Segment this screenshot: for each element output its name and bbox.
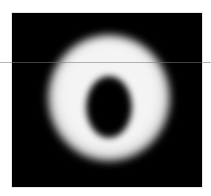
scan-line-artifact [0,62,211,63]
dark-center [86,76,132,138]
image-panel [12,13,202,187]
image-frame [0,0,211,196]
